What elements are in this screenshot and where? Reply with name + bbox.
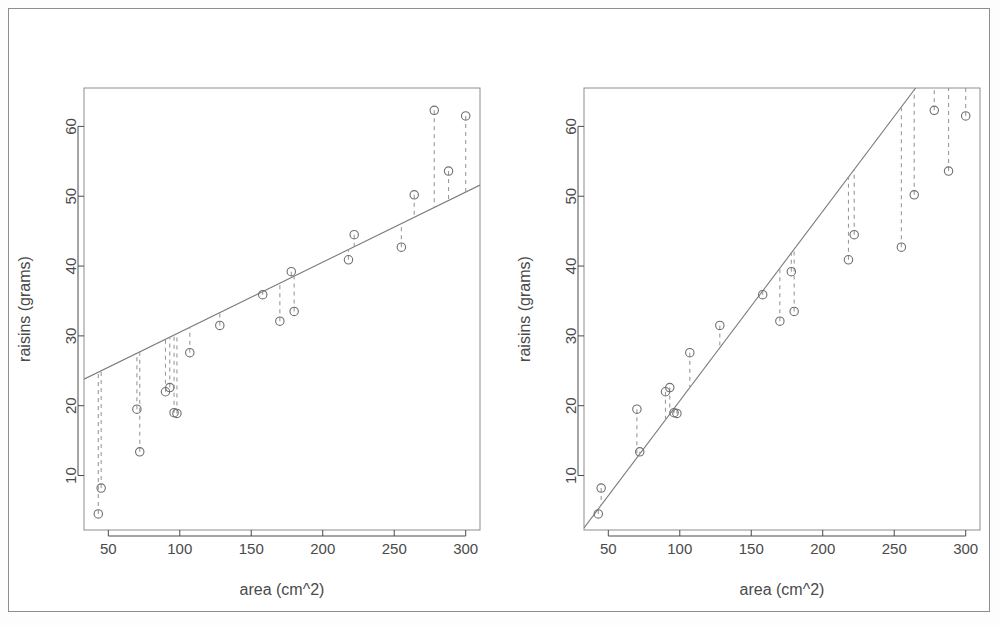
y-tick-label: 40 bbox=[563, 258, 580, 275]
x-tick-label: 200 bbox=[810, 540, 835, 557]
data-group bbox=[584, 21, 970, 527]
y-tick-label: 20 bbox=[63, 397, 80, 414]
x-tick-label: 100 bbox=[167, 540, 192, 557]
x-tick-label: 50 bbox=[100, 540, 117, 557]
y-tick-label: 40 bbox=[63, 258, 80, 275]
y-tick-label: 10 bbox=[63, 467, 80, 484]
plot-svg-right: 10203040506050100150200250300area (cm^2)… bbox=[500, 0, 1000, 625]
y-tick-label: 30 bbox=[563, 328, 580, 345]
x-tick-label: 150 bbox=[739, 540, 764, 557]
y-tick-label: 20 bbox=[563, 397, 580, 414]
plot-box bbox=[84, 88, 480, 530]
figure-page: 10203040506050100150200250300area (cm^2)… bbox=[0, 0, 1000, 625]
plot-svg-left: 10203040506050100150200250300area (cm^2)… bbox=[0, 0, 500, 625]
x-tick-label: 150 bbox=[239, 540, 264, 557]
x-tick-label: 100 bbox=[667, 540, 692, 557]
axes-group: 10203040506050100150200250300area (cm^2)… bbox=[16, 88, 480, 598]
fit-line bbox=[84, 185, 480, 379]
x-axis-title: area (cm^2) bbox=[740, 581, 825, 598]
y-tick-label: 60 bbox=[563, 118, 580, 135]
data-group bbox=[84, 106, 480, 518]
y-axis-title: raisins (grams) bbox=[16, 256, 33, 362]
x-tick-label: 50 bbox=[600, 540, 617, 557]
x-tick-label: 300 bbox=[453, 540, 478, 557]
x-tick-label: 300 bbox=[953, 540, 978, 557]
y-axis-title: raisins (grams) bbox=[516, 256, 533, 362]
plot-box bbox=[584, 88, 980, 530]
axes-group: 10203040506050100150200250300area (cm^2)… bbox=[516, 88, 980, 598]
plot-panel-left: 10203040506050100150200250300area (cm^2)… bbox=[0, 0, 500, 625]
x-axis-title: area (cm^2) bbox=[240, 581, 325, 598]
x-tick-label: 250 bbox=[382, 540, 407, 557]
y-tick-label: 10 bbox=[563, 467, 580, 484]
x-tick-label: 200 bbox=[310, 540, 335, 557]
y-tick-label: 60 bbox=[63, 118, 80, 135]
plot-panel-right: 10203040506050100150200250300area (cm^2)… bbox=[500, 0, 1000, 625]
y-tick-label: 30 bbox=[63, 328, 80, 345]
y-tick-label: 50 bbox=[563, 188, 580, 205]
x-tick-label: 250 bbox=[882, 540, 907, 557]
fit-line bbox=[584, 88, 916, 528]
y-tick-label: 50 bbox=[63, 188, 80, 205]
